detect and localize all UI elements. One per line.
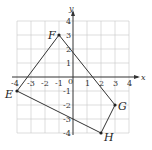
svg-text:-3: -3 (27, 79, 35, 88)
point-h-label: H (103, 131, 114, 144)
point-g-label: G (118, 100, 127, 113)
svg-text:-4: -4 (63, 129, 71, 138)
svg-text:1: 1 (66, 59, 71, 68)
point-e-label: E (4, 88, 13, 101)
svg-text:-4: -4 (11, 79, 19, 88)
point-g (113, 103, 116, 106)
origin-label: 0 (68, 77, 73, 86)
svg-text:-1: -1 (55, 79, 63, 88)
svg-text:4: 4 (127, 79, 132, 88)
svg-text:-1: -1 (63, 87, 71, 96)
svg-text:4: 4 (66, 17, 71, 26)
svg-text:3: 3 (113, 79, 118, 88)
point-f (57, 33, 60, 36)
point-f-label: F (47, 29, 56, 42)
svg-text:1: 1 (85, 79, 90, 88)
x-tick-labels: -4 -3 -2 -1 0 1 2 3 4 (11, 77, 132, 88)
svg-text:-2: -2 (63, 101, 71, 110)
point-h (99, 131, 102, 134)
svg-text:3: 3 (66, 31, 71, 40)
point-e (15, 89, 18, 92)
y-axis-label: y (68, 4, 74, 13)
x-axis-label: x (141, 73, 146, 82)
coordinate-plane: x y -4 -3 -2 -1 0 1 2 3 4 4 3 2 1 -1 -2 … (0, 0, 152, 150)
x-axis-arrow-icon (134, 75, 140, 79)
svg-text:-2: -2 (41, 79, 49, 88)
